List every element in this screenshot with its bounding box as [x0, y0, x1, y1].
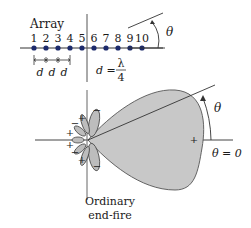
svg-text:4: 4 [118, 71, 125, 84]
svg-text:7: 7 [103, 32, 110, 45]
arrowhead-icon [150, 20, 155, 24]
svg-text:θ = 0: θ = 0 [212, 147, 242, 160]
svg-text:4: 4 [67, 32, 74, 45]
svg-text:+: + [66, 127, 74, 138]
svg-text:+: + [190, 134, 198, 145]
svg-text:6: 6 [91, 32, 98, 45]
element-dot [103, 45, 108, 50]
element-dot [67, 45, 72, 50]
svg-text:θ: θ [214, 101, 222, 115]
svg-text:3: 3 [55, 32, 62, 45]
element-numbers: 1 2 3 4 5 6 7 8 9 10 [31, 32, 150, 45]
svg-text:+: + [78, 154, 86, 165]
svg-text:d =: d = [96, 64, 116, 77]
svg-text:d: d [60, 66, 67, 79]
svg-text:9: 9 [127, 32, 134, 45]
svg-text:8: 8 [115, 32, 122, 45]
svg-text:−: − [93, 105, 101, 116]
caption-line2: end-fire [88, 209, 131, 222]
element-dot [91, 45, 96, 50]
svg-text:2: 2 [43, 32, 50, 45]
element-dot [43, 45, 48, 50]
svg-text:10: 10 [135, 32, 149, 45]
main-lobe [88, 90, 204, 190]
svg-text:d: d [36, 66, 43, 79]
svg-text:−: − [93, 161, 101, 172]
arrowhead-icon [200, 95, 206, 101]
element-dot [55, 45, 60, 50]
pattern-angle-indicator: θ θ = 0 [200, 95, 242, 160]
element-dot [79, 45, 84, 50]
caption-line1: Ordinary [85, 195, 136, 208]
svg-text:λ: λ [118, 57, 125, 70]
end-fire-array-diagram: Array 1 2 3 4 5 6 7 8 9 10 d [0, 0, 251, 228]
svg-text:5: 5 [79, 32, 86, 45]
element-dot [115, 45, 120, 50]
svg-text:θ: θ [166, 25, 174, 39]
element-dot [31, 45, 36, 50]
array-title: Array [29, 17, 64, 31]
svg-text:d: d [48, 66, 55, 79]
spacing-labels: d d d [36, 66, 67, 79]
spacing-equation: d = λ 4 [96, 57, 126, 84]
spacing-dimensions [34, 55, 70, 65]
svg-text:1: 1 [31, 32, 38, 45]
